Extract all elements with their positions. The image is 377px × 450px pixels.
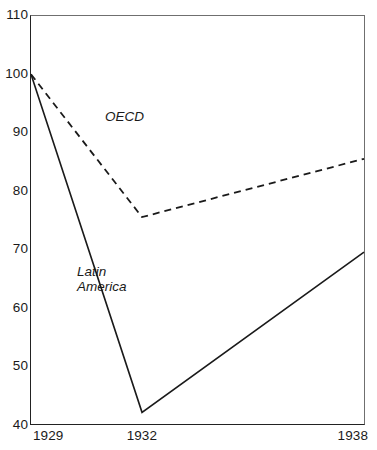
y-tick-label-110: 110 xyxy=(0,8,28,22)
y-tick-label-50: 50 xyxy=(0,359,28,373)
series-annotation-latin-america: Latin America xyxy=(77,264,127,294)
x-tick-label-1938: 1938 xyxy=(338,428,368,443)
plot-area: OECD Latin America xyxy=(30,15,365,425)
series-line-oecd xyxy=(31,74,364,217)
y-tick-label-100: 100 xyxy=(0,67,28,81)
x-axis-labels: 1929 1932 1938 xyxy=(0,428,377,450)
series-annotation-oecd: OECD xyxy=(105,109,144,124)
line-chart: 110 100 90 80 70 60 50 40 OECD Latin Ame… xyxy=(0,0,377,450)
plot-svg xyxy=(31,16,364,424)
y-tick-label-60: 60 xyxy=(0,301,28,315)
x-tick-label-1929: 1929 xyxy=(33,428,63,443)
series-line-latin-america xyxy=(31,74,364,412)
y-axis-labels: 110 100 90 80 70 60 50 40 xyxy=(0,0,28,450)
x-tick-label-1932: 1932 xyxy=(127,428,157,443)
y-tick-label-80: 80 xyxy=(0,184,28,198)
y-tick-label-70: 70 xyxy=(0,242,28,256)
y-tick-label-90: 90 xyxy=(0,125,28,139)
